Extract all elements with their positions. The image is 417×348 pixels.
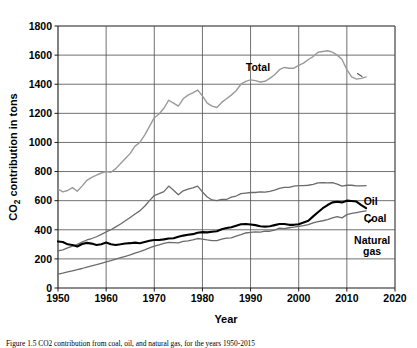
figure-caption: Figure 1.5 CO2 contribution from coal, o…	[6, 332, 411, 348]
x-tick-label: 1980	[191, 292, 215, 304]
x-tick-label: 2020	[383, 292, 407, 304]
figure-caption-text: Figure 1.5 CO2 contribution from coal, o…	[6, 339, 255, 348]
y-axis-tick-labels: 020040060080010001200140016001800	[29, 20, 53, 294]
y-axis-title: CO2 contribution in tons	[7, 93, 22, 221]
tick-marks	[55, 26, 396, 292]
y-tick-label: 200	[34, 253, 52, 265]
x-axis-tick-labels: 19501960197019801990200020102020	[46, 292, 407, 304]
x-tick-label: 1960	[94, 292, 118, 304]
leader-line-total	[358, 74, 363, 77]
series-line-total	[58, 51, 366, 192]
x-axis-title: Year	[214, 313, 238, 325]
series-label-coal: Coal	[364, 212, 387, 224]
series-label-natural-gas: Naturalgas	[354, 234, 390, 257]
x-tick-label: 1970	[143, 292, 167, 304]
y-tick-label: 800	[34, 165, 52, 177]
x-tick-label: 2010	[335, 292, 359, 304]
x-tick-label: 1950	[46, 292, 70, 304]
y-tick-label: 400	[34, 224, 52, 236]
y-tick-label: 1400	[29, 78, 53, 90]
series-label-oil: Oil	[364, 195, 378, 207]
series-inline-labels: TotalOilCoalNaturalgas	[246, 61, 391, 257]
y-tick-label: 600	[34, 194, 52, 206]
series-label-total: Total	[246, 61, 270, 73]
y-tick-label: 1600	[29, 49, 53, 61]
y-tick-label: 1800	[29, 20, 53, 32]
series-line-coal	[58, 201, 366, 247]
x-tick-label: 2000	[287, 292, 311, 304]
y-tick-label: 1000	[29, 136, 53, 148]
y-tick-label: 1200	[29, 107, 53, 119]
x-tick-label: 1990	[239, 292, 263, 304]
